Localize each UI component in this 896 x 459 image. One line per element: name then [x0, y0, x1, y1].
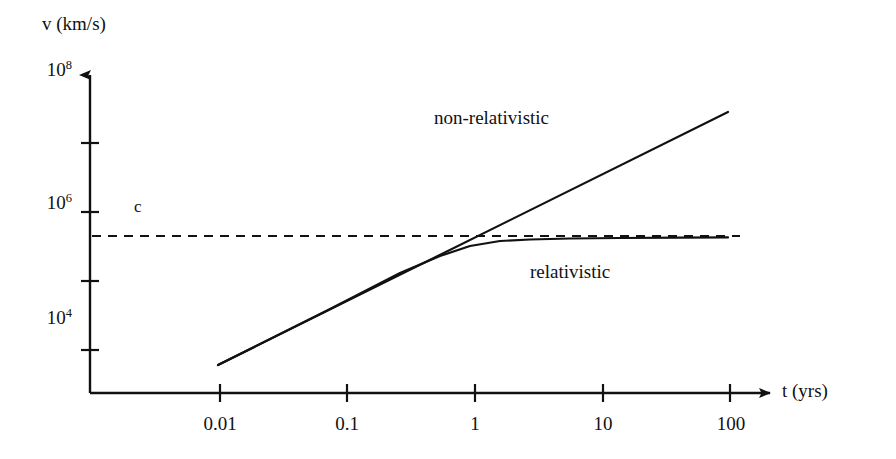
annotation-relativistic: relativistic: [530, 262, 610, 281]
y-axis-title: v (km/s): [42, 14, 106, 33]
x-tick-label-0-01: 0.01: [180, 414, 260, 433]
annotation-speed-of-light: c: [134, 198, 142, 215]
y-tick-label-1e6: 106: [10, 193, 72, 212]
x-axis-title: t (yrs): [782, 381, 828, 400]
y-tick-exponent: 8: [66, 58, 72, 72]
y-tick-exponent: 4: [66, 306, 72, 320]
annotation-non-relativistic: non-relativistic: [434, 108, 549, 127]
x-tick-label-100: 100: [691, 414, 771, 433]
x-tick-label-0-1: 0.1: [307, 414, 387, 433]
chart-plot-area: [0, 0, 896, 459]
y-tick-label-1e8: 108: [10, 60, 72, 79]
x-tick-label-1: 1: [435, 414, 515, 433]
y-tick-exponent: 6: [66, 191, 72, 205]
series-line-relativistic: [218, 237, 728, 365]
figure-canvas: v (km/s) t (yrs) 108 106 104 0.01 0.1 1 …: [0, 0, 896, 459]
x-tick-label-10: 10: [563, 414, 643, 433]
y-tick-label-1e4: 104: [10, 308, 72, 327]
